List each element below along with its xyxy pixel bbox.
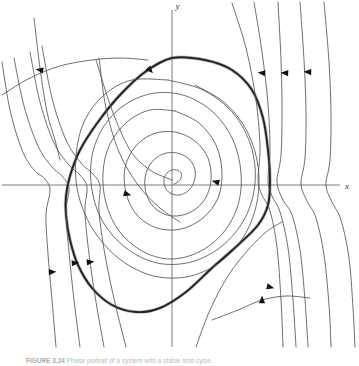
x-axis-label: x — [344, 181, 349, 191]
figure-caption-text: Phase portrait of a system with a stable… — [67, 357, 213, 364]
figure-caption-key: FIGURE 3.24 — [26, 357, 65, 364]
plot-background — [0, 0, 359, 366]
y-axis-label: y — [175, 1, 180, 11]
phase-portrait-plot: xy — [0, 0, 359, 366]
phase-portrait-figure: xy FIGURE 3.24 Phase portrait of a syste… — [0, 0, 359, 366]
figure-caption: FIGURE 3.24 Phase portrait of a system w… — [26, 356, 346, 366]
